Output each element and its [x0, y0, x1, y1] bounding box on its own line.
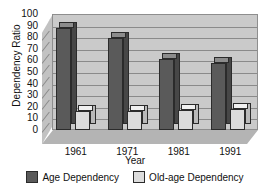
y-axis-tick-label: 90 — [27, 22, 38, 30]
bar-1991-old-age-dependency — [230, 109, 245, 130]
bar-front-face — [178, 110, 193, 130]
gridline-side-tick — [42, 77, 50, 87]
plot-area — [42, 14, 258, 144]
bar-front-face — [230, 109, 245, 130]
y-axis-tick-label: 20 — [27, 103, 38, 111]
y-axis-tick-label: 0 — [32, 126, 38, 134]
gridline-side-tick — [42, 30, 50, 40]
y-axis-tick-label: 40 — [27, 80, 38, 88]
y-axis-tick-label: 30 — [27, 91, 38, 99]
bar-side-face — [71, 22, 77, 124]
legend-label: Age Dependency — [42, 172, 119, 183]
y-axis-tick-label: 100 — [21, 10, 38, 18]
bar-front-face — [108, 38, 123, 130]
gridline-side-tick — [42, 42, 50, 52]
dependency-ratio-bar-chart: Dependency Ratio 0102030405060708090100 … — [0, 0, 270, 194]
bar-1961-age-dependency — [56, 28, 71, 130]
x-axis-title: Year — [0, 155, 270, 166]
chart-legend: Age DependencyOld-age Dependency — [0, 171, 270, 183]
y-axis-tick-label: 50 — [27, 68, 38, 76]
gridline-side-tick — [42, 65, 50, 75]
legend-swatch-icon — [133, 171, 145, 183]
gridline-side-tick — [42, 54, 50, 64]
gridline — [53, 38, 257, 39]
gridline-side-tick — [42, 100, 50, 110]
legend-item[interactable]: Age Dependency — [26, 171, 119, 183]
y-axis-tick-label: 60 — [27, 56, 38, 64]
bar-1961-old-age-dependency — [75, 111, 90, 130]
gridline — [53, 27, 257, 28]
legend-swatch-icon — [26, 171, 38, 183]
bar-front-face — [75, 111, 90, 130]
gridline-side-tick — [42, 123, 50, 133]
y-axis-tick-label: 70 — [27, 45, 38, 53]
bar-front-face — [56, 28, 71, 130]
bar-1981-age-dependency — [159, 59, 174, 130]
bar-1971-age-dependency — [108, 38, 123, 130]
legend-item[interactable]: Old-age Dependency — [133, 171, 244, 183]
bar-1991-age-dependency — [211, 63, 226, 130]
bar-1971-old-age-dependency — [127, 111, 142, 130]
y-axis-tick-label: 10 — [27, 114, 38, 122]
bar-front-face — [211, 63, 226, 130]
bar-1981-old-age-dependency — [178, 110, 193, 130]
bar-front-face — [159, 59, 174, 130]
y-axis-tick-label: 80 — [27, 33, 38, 41]
gridline-side-tick — [42, 19, 50, 29]
y-axis-tick-labels: 0102030405060708090100 — [16, 14, 38, 130]
gridline-side-tick — [42, 88, 50, 98]
bar-front-face — [127, 111, 142, 130]
bar-side-face — [123, 32, 129, 124]
gridline — [53, 50, 257, 51]
gridline-side-tick — [42, 112, 50, 122]
legend-label: Old-age Dependency — [149, 172, 244, 183]
